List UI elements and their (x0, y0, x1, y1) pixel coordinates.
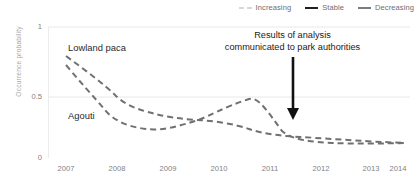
y-tick-label-0: 0 (24, 153, 42, 162)
x-tick-label-2014: 2014 (378, 164, 418, 173)
y-tick-label-1: 1 (24, 22, 42, 31)
series-label-agouti: Agouti (68, 110, 95, 121)
stable-line-icon (305, 7, 318, 9)
legend-item-stable[interactable]: Stable (305, 3, 344, 12)
series-line-agouti (66, 65, 405, 144)
legend-item-increasing[interactable]: Increasing (239, 3, 292, 12)
y-axis-title: Occurrence probability (15, 10, 22, 114)
x-tick-label-2008: 2008 (97, 164, 137, 173)
legend-label-stable: Stable (322, 3, 344, 12)
annotation-line-2: communicated to park authorities (185, 42, 400, 54)
legend-label-decreasing: Decreasing (375, 3, 414, 12)
legend-item-decreasing[interactable]: Decreasing (358, 3, 414, 12)
chart-legend: Increasing Stable Decreasing (239, 3, 414, 12)
series-line-lowland-paca (66, 56, 405, 143)
x-tick-label-2011: 2011 (250, 164, 290, 173)
analysis-annotation: Results of analysis communicated to park… (185, 30, 400, 53)
decreasing-line-icon (358, 7, 371, 9)
increasing-line-icon (239, 7, 252, 9)
annotation-arrow (287, 57, 299, 120)
x-tick-label-2012: 2012 (301, 164, 341, 173)
series-lines (66, 56, 405, 144)
series-label-lowland-paca: Lowland paca (68, 42, 126, 53)
plot-area (0, 0, 418, 181)
annotation-line-1: Results of analysis (185, 30, 400, 42)
legend-label-increasing: Increasing (256, 3, 292, 12)
x-tick-label-2010: 2010 (199, 164, 239, 173)
x-tick-label-2007: 2007 (46, 164, 86, 173)
arrow-head (287, 108, 299, 120)
y-tick-label-0point5: 0.5 (24, 92, 42, 101)
occurrence-probability-chart: Increasing Stable Decreasing Occurrence … (0, 0, 418, 181)
x-tick-label-2009: 2009 (148, 164, 188, 173)
